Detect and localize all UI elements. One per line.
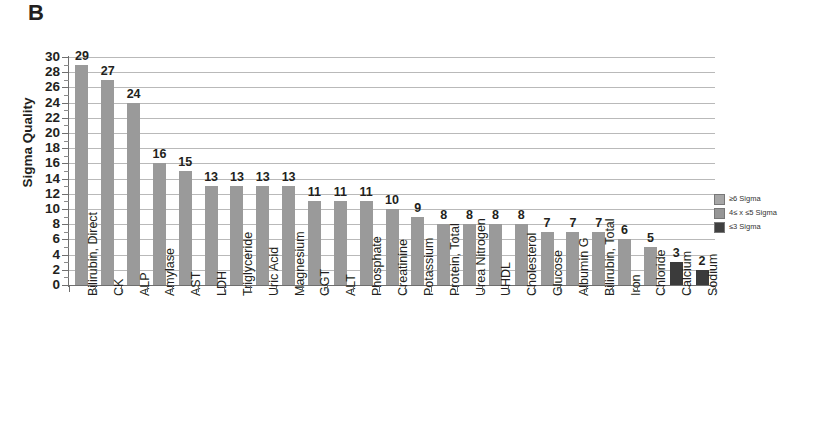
x-axis-label: Uric Acid (268, 247, 281, 296)
bar (334, 201, 347, 285)
gridline (69, 118, 715, 119)
x-tick-mark (224, 286, 225, 292)
x-tick-mark (457, 286, 458, 292)
x-axis-label: CK (113, 279, 126, 296)
gridline (69, 133, 715, 134)
bar-value-label: 27 (92, 65, 124, 78)
x-tick-mark (715, 286, 716, 292)
y-tick-label: 24 (34, 96, 60, 110)
y-tick-mark (62, 72, 69, 73)
chart-legend: ≥6 Sigma4≤ x ≤5 Sigma≤3 Sigma (714, 193, 824, 235)
y-tick-mark (62, 179, 69, 180)
y-tick-minor-mark (64, 201, 69, 202)
y-tick-label: 12 (34, 187, 60, 201)
gridline (69, 103, 715, 104)
x-axis-label: Chloride (655, 249, 668, 296)
x-axis-label: Magnesium (294, 231, 307, 296)
y-tick-mark (62, 148, 69, 149)
x-axis-label: Urea Nitrogen (475, 218, 488, 296)
y-tick-mark (62, 194, 69, 195)
y-tick-label: 16 (34, 156, 60, 170)
x-axis-label: Protein, Total (449, 223, 462, 296)
x-axis-label: Sodium (707, 254, 720, 296)
x-tick-mark (327, 286, 328, 292)
y-tick-label: 30 (34, 50, 60, 64)
gridline (69, 57, 715, 58)
x-axis-label: Creatinine (397, 239, 410, 296)
y-tick-label: 22 (34, 111, 60, 125)
y-axis-tick-labels: 302826242220181614121086420 (30, 0, 60, 421)
y-tick-minor-mark (64, 277, 69, 278)
legend-label: ≥6 Sigma (729, 193, 761, 204)
x-tick-mark (560, 286, 561, 292)
x-axis-label: ALP (139, 272, 152, 296)
x-tick-mark (586, 286, 587, 292)
bar-value-label: 5 (634, 232, 666, 245)
y-tick-minor-mark (64, 141, 69, 142)
x-axis-label: Triglyceride (242, 232, 255, 296)
x-axis-label: Potassium (423, 238, 436, 296)
y-tick-minor-mark (64, 65, 69, 66)
y-tick-label: 6 (34, 232, 60, 246)
legend-item: ≤3 Sigma (714, 221, 824, 233)
y-tick-mark (62, 57, 69, 58)
bar-value-label: 29 (66, 50, 98, 63)
x-tick-mark (147, 286, 148, 292)
y-tick-minor-mark (64, 186, 69, 187)
x-axis-label: Iron (630, 274, 643, 296)
y-tick-mark (62, 224, 69, 225)
figure-panel-b: B Sigma Quality 302826242220181614121086… (0, 0, 826, 421)
x-axis-label: ALT (345, 274, 358, 296)
x-tick-mark (250, 286, 251, 292)
y-tick-mark (62, 255, 69, 256)
x-tick-mark (663, 286, 664, 292)
y-tick-mark (62, 133, 69, 134)
gridline (69, 87, 715, 88)
y-tick-mark (62, 103, 69, 104)
x-axis-label: Calcium (681, 251, 694, 296)
y-tick-label: 28 (34, 65, 60, 79)
x-tick-mark (534, 286, 535, 292)
x-tick-mark (431, 286, 432, 292)
x-tick-mark (612, 286, 613, 292)
x-axis-label: Glucose (552, 250, 565, 296)
y-tick-label: 20 (34, 126, 60, 140)
x-axis-label: Bilirubin, Total (604, 218, 617, 296)
bar (101, 80, 114, 285)
y-tick-mark (62, 209, 69, 210)
x-tick-mark (276, 286, 277, 292)
x-tick-mark (69, 286, 70, 292)
x-axis-label: Amylase (164, 248, 177, 296)
x-axis-label: GGT (319, 269, 332, 296)
y-tick-mark (62, 118, 69, 119)
x-tick-mark (482, 286, 483, 292)
y-tick-mark (62, 87, 69, 88)
x-tick-mark (172, 286, 173, 292)
y-tick-mark (62, 270, 69, 271)
y-tick-minor-mark (64, 217, 69, 218)
x-axis-label: UHDL (500, 262, 513, 296)
y-tick-mark (62, 239, 69, 240)
bar (127, 103, 140, 285)
y-tick-minor-mark (64, 171, 69, 172)
y-tick-label: 18 (34, 141, 60, 155)
x-axis-label: AST (190, 272, 203, 296)
x-tick-mark (198, 286, 199, 292)
x-axis-label: Cholesterol (526, 233, 539, 296)
x-tick-mark (405, 286, 406, 292)
bar-value-label: 24 (118, 88, 150, 101)
x-tick-mark (95, 286, 96, 292)
legend-label: 4≤ x ≤5 Sigma (729, 207, 777, 218)
y-tick-minor-mark (64, 247, 69, 248)
y-tick-minor-mark (64, 262, 69, 263)
x-axis-label: LDH (216, 271, 229, 296)
legend-swatch (714, 208, 725, 219)
x-tick-mark (121, 286, 122, 292)
legend-swatch (714, 194, 725, 205)
bar (179, 171, 192, 285)
caption-sliver (0, 413, 826, 421)
y-tick-minor-mark (64, 232, 69, 233)
y-tick-label: 8 (34, 217, 60, 231)
y-tick-minor-mark (64, 125, 69, 126)
y-tick-label: 10 (34, 202, 60, 216)
